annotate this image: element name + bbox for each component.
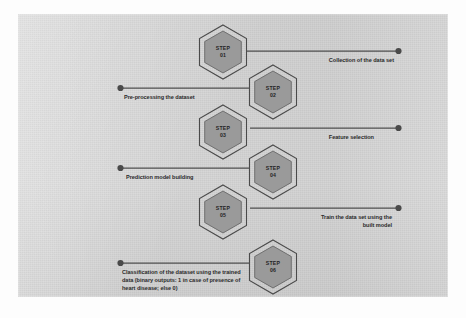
step-caption-06-line-3: heart disease; else 0) xyxy=(122,285,178,291)
step-badge-label-01: STEP xyxy=(216,45,231,51)
figure-canvas: STEP 01 Collection of the data set STEP … xyxy=(0,0,466,318)
step-caption-01: Collection of the data set xyxy=(329,57,394,63)
step-caption-04: Prediction model building xyxy=(126,174,194,180)
connector-04 xyxy=(117,165,250,171)
connector-endpoint-dot-05 xyxy=(395,205,401,211)
step-caption-06-line-1: Classification of the dataset using the … xyxy=(122,269,241,275)
step-caption-02: Pre-processing the dataset xyxy=(124,94,195,100)
step-node-01[interactable]: STEP 01 xyxy=(200,25,247,79)
process-flow-diagram: STEP 01 Collection of the data set STEP … xyxy=(0,0,466,318)
step-caption-05-line-1: Train the data set using the xyxy=(321,214,392,220)
step-badge-label-04: STEP xyxy=(266,165,281,171)
step-caption-06-line-2: data (binary outputs: 1 in case of prese… xyxy=(122,277,240,283)
connector-03 xyxy=(250,125,402,131)
step-badge-number-06: 06 xyxy=(270,267,276,273)
step-badge-label-02: STEP xyxy=(266,85,281,91)
step-node-05[interactable]: STEP 05 xyxy=(200,185,247,239)
step-node-04[interactable]: STEP 04 xyxy=(250,145,297,199)
step-badge-number-04: 04 xyxy=(270,172,276,178)
step-caption-03: Feature selection xyxy=(329,134,375,140)
step-badge-label-06: STEP xyxy=(266,260,281,266)
connector-06 xyxy=(117,260,250,266)
connector-02 xyxy=(117,85,250,91)
step-caption-05-line-2: built model xyxy=(363,222,393,228)
connector-05 xyxy=(250,205,402,211)
step-badge-number-03: 03 xyxy=(220,132,226,138)
connector-endpoint-dot-06 xyxy=(117,260,123,266)
connector-endpoint-dot-03 xyxy=(395,125,401,131)
step-badge-number-01: 01 xyxy=(220,52,226,58)
connector-endpoint-dot-04 xyxy=(117,165,123,171)
connector-endpoint-dot-01 xyxy=(395,48,401,54)
step-badge-number-02: 02 xyxy=(270,92,276,98)
step-badge-label-03: STEP xyxy=(216,125,231,131)
step-badge-label-05: STEP xyxy=(216,205,231,211)
step-badge-number-05: 05 xyxy=(220,212,226,218)
step-node-02[interactable]: STEP 02 xyxy=(250,65,297,119)
step-node-03[interactable]: STEP 03 xyxy=(200,105,247,159)
step-node-06[interactable]: STEP 06 xyxy=(250,240,297,294)
connector-01 xyxy=(246,48,402,54)
connector-endpoint-dot-02 xyxy=(117,85,123,91)
